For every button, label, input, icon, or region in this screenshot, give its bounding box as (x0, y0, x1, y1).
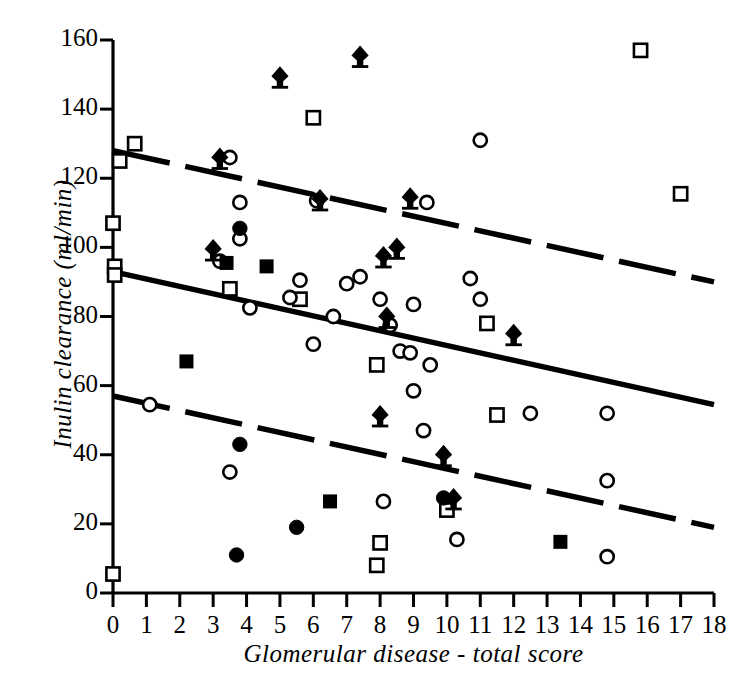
point-open-square (370, 559, 383, 572)
point-open-circle (340, 277, 353, 290)
axes (100, 40, 714, 607)
point-filled-square (179, 354, 193, 368)
y-tick-label: 20 (38, 508, 98, 536)
lower-confidence-line (113, 396, 714, 527)
point-open-square (634, 44, 647, 57)
point-open-circle (407, 298, 420, 311)
point-open-circle (417, 424, 430, 437)
point-filled-diamond (271, 66, 288, 88)
point-open-circle (404, 346, 417, 359)
y-tick-label: 100 (38, 231, 98, 259)
point-open-circle (377, 495, 390, 508)
point-open-circle (223, 465, 236, 478)
point-open-square (490, 408, 503, 421)
point-filled-circle (233, 437, 247, 451)
point-open-square (307, 111, 320, 124)
point-filled-diamond (372, 405, 389, 427)
scatter-plot-figure: Inulin clearance (ml/min) Glomerular dis… (0, 0, 737, 687)
point-open-circle (327, 310, 340, 323)
point-open-circle (233, 196, 246, 209)
point-open-circle (424, 358, 437, 371)
point-filled-diamond (505, 324, 522, 346)
y-tick-label: 40 (38, 439, 98, 467)
plot-canvas (0, 0, 737, 687)
point-filled-square (220, 256, 234, 270)
point-open-circle (143, 398, 156, 411)
x-tick-label: 18 (694, 611, 734, 639)
point-filled-circle (233, 221, 247, 235)
y-tick-label: 140 (38, 93, 98, 121)
point-filled-square (260, 259, 274, 273)
point-open-square (108, 268, 121, 281)
point-open-circle (601, 407, 614, 420)
point-filled-diamond (351, 46, 368, 68)
point-open-circle (464, 272, 477, 285)
y-tick-label: 60 (38, 370, 98, 398)
y-tick-label: 160 (38, 24, 98, 52)
point-open-square (223, 282, 236, 295)
point-filled-square (553, 535, 567, 549)
point-open-circle (474, 293, 487, 306)
x-axis-title: Glomerular disease - total score (113, 640, 714, 668)
y-tick-label: 120 (38, 162, 98, 190)
point-filled-circle (289, 520, 303, 534)
point-open-square (370, 358, 383, 371)
point-open-circle (353, 270, 366, 283)
point-open-circle (524, 407, 537, 420)
point-open-square (113, 154, 126, 167)
point-filled-diamond (402, 187, 419, 209)
y-tick-label: 80 (38, 301, 98, 329)
point-open-square (374, 536, 387, 549)
point-open-circle (283, 291, 296, 304)
point-open-circle (601, 550, 614, 563)
point-open-circle (293, 274, 306, 287)
point-open-square (128, 137, 141, 150)
point-open-circle (243, 301, 256, 314)
point-open-square (106, 567, 119, 580)
y-tick-label: 0 (38, 577, 98, 605)
point-open-circle (601, 474, 614, 487)
point-open-circle (474, 134, 487, 147)
point-open-square (106, 217, 119, 230)
point-filled-square (323, 494, 337, 508)
point-open-circle (374, 293, 387, 306)
point-open-circle (420, 196, 433, 209)
point-filled-circle (229, 548, 243, 562)
point-open-circle (407, 384, 420, 397)
point-open-circle (307, 338, 320, 351)
point-open-square (480, 317, 493, 330)
point-open-square (674, 187, 687, 200)
upper-confidence-line (113, 151, 714, 282)
point-filled-diamond (435, 445, 452, 467)
point-open-circle (450, 533, 463, 546)
